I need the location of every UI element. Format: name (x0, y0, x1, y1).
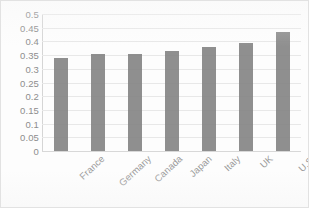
bar-slot (42, 14, 79, 151)
bar-slot (116, 14, 153, 151)
y-axis-tick-label: 0.35 (3, 50, 39, 61)
x-axis-tick-label: Italy (221, 153, 242, 173)
bar[interactable] (276, 32, 290, 151)
bar-slot (264, 14, 301, 151)
y-axis-tick-label: 0.4 (3, 36, 39, 47)
bar[interactable] (239, 43, 253, 151)
y-axis-tick-labels: 0.50.450.40.350.30.250.20.150.10.050 (1, 14, 39, 151)
x-axis-tick-label: UK (257, 153, 274, 170)
bar[interactable] (202, 47, 216, 151)
bar-slot (153, 14, 190, 151)
x-axis-tick-label: Japan (187, 153, 214, 179)
y-axis-tick-label: 0.05 (3, 132, 39, 143)
y-axis-tick-label: 0.2 (3, 91, 39, 102)
bar[interactable] (165, 51, 179, 151)
bar-slot (79, 14, 116, 151)
bar-chart-figure: 0.50.450.40.350.30.250.20.150.10.050 Fra… (0, 0, 309, 208)
x-axis-tick-label: U.S. (296, 153, 309, 174)
bar-slot (190, 14, 227, 151)
y-axis-tick-label: 0.15 (3, 104, 39, 115)
x-axis-tick-label: France (77, 153, 107, 182)
bar-slot (227, 14, 264, 151)
y-axis-tick-label: 0.25 (3, 77, 39, 88)
y-axis-tick-label: 0.1 (3, 118, 39, 129)
y-axis-tick-label: 0.45 (3, 22, 39, 33)
y-axis-tick-label: 0.3 (3, 63, 39, 74)
x-axis-tick-labels: FranceGermanyCanadaJapanItalyUKU.S. (42, 151, 301, 207)
bar[interactable] (91, 54, 105, 151)
x-axis-tick-label: Canada (152, 153, 184, 184)
bar[interactable] (54, 58, 68, 151)
x-axis-tick-label: Germany (116, 153, 153, 188)
bar[interactable] (128, 54, 142, 151)
y-axis-tick-label: 0.5 (3, 9, 39, 20)
plot-area (42, 14, 301, 151)
y-axis-tick-label: 0 (3, 146, 39, 157)
